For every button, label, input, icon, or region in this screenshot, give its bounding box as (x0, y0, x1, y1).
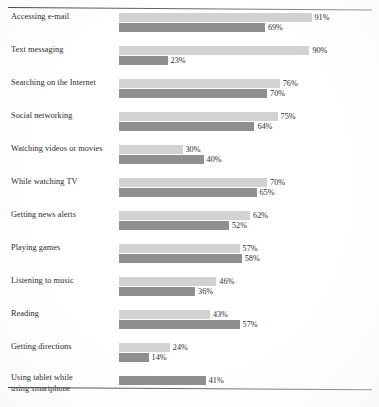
bar-value-label: 14% (149, 353, 167, 363)
bar-dark (119, 376, 206, 385)
bar-line: 64% (119, 122, 379, 131)
category-label-line: Using tablet while (11, 373, 73, 382)
bar-dark (119, 221, 229, 230)
bar-pair: 62%52% (119, 211, 379, 231)
bar-value-label: 90% (309, 46, 327, 56)
bar-line: 70% (119, 178, 379, 187)
bar-group-row: Text messaging90%23% (0, 45, 379, 78)
bar-pair: 57%58% (119, 244, 379, 264)
category-label: While watching TV (11, 177, 115, 188)
bar-light (119, 112, 278, 121)
bar-line: 58% (119, 254, 379, 263)
bar-dark (119, 353, 149, 362)
bar-value-label: 58% (242, 254, 260, 264)
bar-line: 46% (119, 277, 379, 286)
bar-line: 91% (119, 13, 379, 22)
bar-light (119, 343, 170, 352)
bar-line: 43% (119, 310, 379, 319)
bar-line: 75% (119, 112, 379, 121)
bar-group-row: Playing games57%58% (0, 243, 379, 276)
bar-value-label: 30% (183, 145, 201, 155)
bar-group-row: Searching on the Internet76%70% (0, 78, 379, 111)
bar-value-label: 62% (250, 211, 268, 221)
bar-value-label: 64% (254, 122, 272, 132)
category-label: Text messaging (11, 45, 115, 56)
bar-value-label: 23% (168, 56, 186, 66)
bar-line: 40% (119, 155, 379, 164)
category-label-line: Getting news alerts (11, 210, 76, 219)
bar-line: 76% (119, 79, 379, 88)
bar-group-row: While watching TV70%65% (0, 177, 379, 210)
bar-value-label: 76% (280, 79, 298, 89)
bar-pair: 43%57% (119, 310, 379, 330)
category-label: Listening to music (11, 276, 115, 287)
bar-line: 90% (119, 46, 379, 55)
bar-dark (119, 188, 257, 197)
category-label-line: Getting directions (11, 342, 72, 351)
bar-value-label: 46% (216, 277, 234, 287)
category-label-line: Watching videos or movies (11, 144, 103, 153)
bar-dark (119, 254, 242, 263)
bar-pair: 91%69% (119, 13, 379, 33)
bar-value-label: 52% (229, 221, 247, 231)
category-label: Reading (11, 309, 115, 320)
bar-light (119, 46, 309, 55)
category-label: Searching on the Internet (11, 78, 115, 89)
category-label-line: Searching on the Internet (11, 78, 96, 87)
bar-value-label: 40% (204, 155, 222, 165)
footnote-text (10, 398, 310, 407)
bar-line: 36% (119, 287, 379, 296)
bar-dark (119, 56, 168, 65)
category-label: Getting news alerts (11, 210, 115, 221)
top-divider-rule (8, 7, 372, 10)
category-label-line: Listening to music (11, 276, 74, 285)
category-label-line: Accessing e-mail (11, 12, 69, 21)
bar-light (119, 277, 216, 286)
bar-pair: 76%70% (119, 79, 379, 99)
bar-pair: 24%14% (119, 343, 379, 363)
bar-pair: 30%40% (119, 145, 379, 165)
bar-value-label: 70% (267, 178, 285, 188)
bar-light (119, 244, 240, 253)
bar-group-row: Reading43%57% (0, 309, 379, 342)
bar-line: 52% (119, 221, 379, 230)
bar-line: 30% (119, 145, 379, 154)
category-label-line: While watching TV (11, 177, 78, 186)
category-label: Using tablet whileusing smartphone (11, 373, 115, 394)
bar-group-row: Watching videos or movies30%40% (0, 144, 379, 177)
chart-figure: Accessing e-mail91%69%Text messaging90%2… (0, 0, 379, 407)
bar-light (119, 211, 250, 220)
bar-line: 62% (119, 211, 379, 220)
bar-light (119, 13, 312, 22)
bar-light (119, 310, 210, 319)
bar-dark (119, 122, 254, 131)
bar-group-row: Getting news alerts62%52% (0, 210, 379, 243)
bar-line: 24% (119, 343, 379, 352)
bar-line: 70% (119, 89, 379, 98)
category-label-line: Social networking (11, 111, 72, 120)
bar-line: 57% (119, 320, 379, 329)
category-label-line: Text messaging (11, 45, 63, 54)
bar-pair: 70%65% (119, 178, 379, 198)
bar-line: 41% (119, 376, 379, 385)
bar-pair: 90%23% (119, 46, 379, 66)
bar-pair: 75%64% (119, 112, 379, 132)
category-label: Social networking (11, 111, 115, 122)
bar-value-label: 70% (267, 89, 285, 99)
bar-light (119, 79, 280, 88)
bar-pair: 46%36% (119, 277, 379, 297)
bar-chart: Accessing e-mail91%69%Text messaging90%2… (0, 12, 379, 407)
bar-line: 69% (119, 23, 379, 32)
category-label: Accessing e-mail (11, 12, 115, 23)
bar-dark (119, 89, 267, 98)
bar-value-label: 24% (170, 343, 188, 353)
category-label: Playing games (11, 243, 115, 254)
bar-value-label: 69% (265, 23, 283, 33)
bar-group-row: Getting directions24%14% (0, 342, 379, 375)
bar-light (119, 145, 183, 154)
bar-value-label: 36% (195, 287, 213, 297)
bar-group-row: Social networking75%64% (0, 111, 379, 144)
bar-value-label: 65% (257, 188, 275, 198)
bar-line: 65% (119, 188, 379, 197)
category-label-line: Playing games (11, 243, 60, 252)
